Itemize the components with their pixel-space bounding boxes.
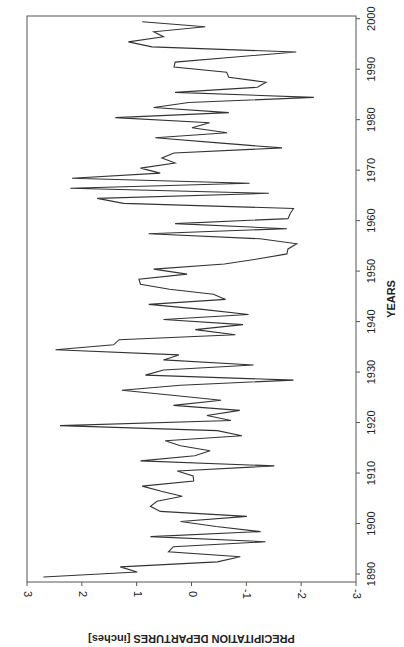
year-tick-label: 2000 xyxy=(365,6,377,30)
year-tick-label: 1930 xyxy=(365,360,377,384)
value-axis-ticks: 3210-1-2-3 xyxy=(22,582,363,599)
year-tick-label: 1910 xyxy=(365,461,377,485)
year-tick-label: 1940 xyxy=(365,309,377,333)
value-tick-label: 0 xyxy=(187,591,199,597)
year-tick-label: 1990 xyxy=(365,57,377,81)
year-tick-label: 1950 xyxy=(365,259,377,283)
value-tick-label: 1 xyxy=(132,591,144,597)
year-axis-title: YEARS xyxy=(385,280,397,318)
data-points xyxy=(43,22,313,577)
precipitation-chart: 3210-1-2-3 18901900191019201930194019501… xyxy=(0,0,404,647)
value-tick-label: -2 xyxy=(296,589,308,599)
value-tick-label: -3 xyxy=(351,589,363,599)
value-tick-label: 3 xyxy=(22,591,34,597)
year-tick-label: 1960 xyxy=(365,208,377,232)
value-tick-label: -1 xyxy=(241,589,253,599)
year-tick-label: 1900 xyxy=(365,511,377,535)
series-line xyxy=(43,22,313,577)
year-tick-label: 1980 xyxy=(365,107,377,131)
plot-frame xyxy=(27,16,356,582)
value-tick-label: 2 xyxy=(77,591,89,597)
year-axis-ticks: 1890190019101920193019401950196019701980… xyxy=(356,6,377,586)
year-tick-label: 1890 xyxy=(365,562,377,586)
value-axis-title: PRECIPITATION DEPARTURES [inches] xyxy=(88,633,295,645)
year-tick-label: 1920 xyxy=(365,410,377,434)
year-tick-label: 1970 xyxy=(365,158,377,182)
